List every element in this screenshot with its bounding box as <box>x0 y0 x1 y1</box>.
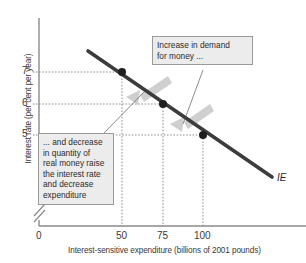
y-tick-label-5: 5 <box>22 128 28 139</box>
data-point-75-6 <box>159 100 167 108</box>
ie-curve-label: IE <box>277 172 286 183</box>
x-tick-label-100: 100 <box>194 230 211 241</box>
annotation-line: for money ... <box>157 51 248 62</box>
annotation-line: in quantity of <box>43 148 109 159</box>
chart-figure: Interest rate (per cent per year) Intere… <box>0 0 306 263</box>
y-tick-label-6: 6 <box>22 97 28 108</box>
data-point-100-5 <box>199 131 207 139</box>
x-tick-label-75: 75 <box>157 230 168 241</box>
x-tick-label-50: 50 <box>116 230 127 241</box>
y-axis-break-icon <box>34 204 45 222</box>
annotation-line: Increase in demand <box>157 40 248 51</box>
leader-line-decrease <box>104 92 144 133</box>
annotation-line: expenditure <box>43 190 109 201</box>
annotation-line: ... and decrease <box>43 137 109 148</box>
x-tick-label-0: 0 <box>36 230 42 241</box>
x-axis-title: Interest-sensitive expenditure (billions… <box>68 246 261 255</box>
y-tick-marks <box>33 72 38 135</box>
y-tick-label-7: 7 <box>22 65 28 76</box>
annotation-increase-in-demand: Increase in demand for money ... <box>152 36 253 65</box>
annotation-line: and decrease <box>43 179 109 190</box>
data-point-50-7 <box>118 68 126 76</box>
annotation-line: real money raise <box>43 158 109 169</box>
y-axis-title: Interest rate (per cent per year) <box>24 29 33 189</box>
annotation-decrease-in-quantity: ... and decrease in quantity of real mon… <box>38 133 114 205</box>
annotation-line: the interest rate <box>43 169 109 180</box>
ie-curve <box>88 51 272 177</box>
